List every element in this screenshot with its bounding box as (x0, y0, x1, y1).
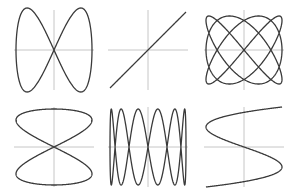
lissajous-figure (0, 0, 294, 195)
panel-lissajous-3-4 (204, 10, 284, 90)
figure-canvas (0, 0, 294, 195)
panel-lissajous-1-1 (108, 10, 188, 90)
panel-lissajous-2-1 (14, 107, 94, 187)
panel-lissajous-1-6 (108, 107, 188, 187)
panel-lissajous-1-2 (14, 8, 94, 92)
panel-lissajous-3-1-open (204, 107, 284, 187)
